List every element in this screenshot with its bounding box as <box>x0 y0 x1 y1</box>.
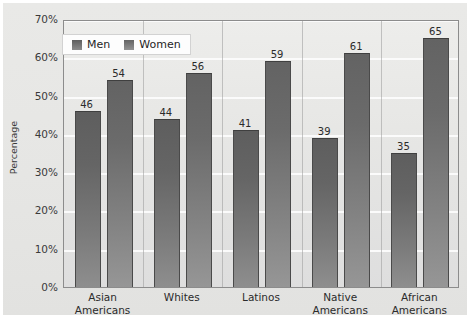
bar-value-label: 41 <box>225 118 265 129</box>
x-axis-tick-line: Americans <box>301 304 380 317</box>
x-axis-tick-line: Whites <box>142 291 221 304</box>
y-axis-tick-label: 50% <box>2 91 58 102</box>
legend-label: Men <box>87 39 110 51</box>
y-axis-tick-label: 30% <box>2 167 58 178</box>
legend-entry-men: Men <box>72 39 110 51</box>
x-axis-tick-line: Americans <box>63 304 142 317</box>
y-axis-tick-label: 0% <box>2 282 58 293</box>
bar-value-label: 65 <box>415 26 455 37</box>
legend-swatch-icon <box>72 40 82 50</box>
bar-value-label: 35 <box>383 141 423 152</box>
x-axis-tick-line: African <box>380 291 459 304</box>
bar-value-label: 56 <box>178 61 218 72</box>
bar-value-label: 39 <box>304 126 344 137</box>
bar-value-label: 61 <box>336 41 376 52</box>
value-labels: 46544456415939613565 <box>63 20 459 288</box>
x-axis-tick-line: Latinos <box>221 291 300 304</box>
y-axis-tick-label: 10% <box>2 244 58 255</box>
bar-value-label: 59 <box>257 49 297 60</box>
x-axis-tick-label: NativeAmericans <box>301 291 380 317</box>
x-axis-tick-label: AsianAmericans <box>63 291 142 317</box>
x-axis-tick-line: Asian <box>63 291 142 304</box>
chart-legend: MenWomen <box>62 34 191 55</box>
y-axis-tick-label: 60% <box>2 52 58 63</box>
y-axis-tick-label: 40% <box>2 129 58 140</box>
bar-value-label: 44 <box>146 107 186 118</box>
chart-figure: Percentage 0%10%20%30%40%50%60%70% 46544… <box>0 0 470 327</box>
legend-entry-women: Women <box>124 39 180 51</box>
legend-label: Women <box>139 39 180 51</box>
x-axis-tick-label: Whites <box>142 291 221 304</box>
legend-swatch-icon <box>124 40 134 50</box>
y-axis-ticks: 0%10%20%30%40%50%60%70% <box>0 20 58 288</box>
x-axis-ticks: AsianAmericansWhitesLatinosNativeAmerica… <box>63 291 459 325</box>
bar-value-label: 46 <box>67 99 107 110</box>
x-axis-tick-label: AfricanAmericans <box>380 291 459 317</box>
x-axis-tick-label: Latinos <box>221 291 300 304</box>
x-axis-tick-line: Americans <box>380 304 459 317</box>
y-axis-tick-label: 70% <box>2 14 58 25</box>
bar-value-label: 54 <box>99 68 139 79</box>
y-axis-tick-label: 20% <box>2 205 58 216</box>
x-axis-tick-line: Native <box>301 291 380 304</box>
